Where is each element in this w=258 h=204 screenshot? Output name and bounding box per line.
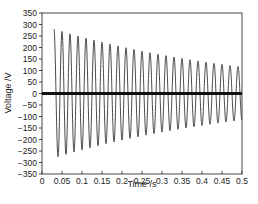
y-tick-label: −250 — [18, 146, 37, 156]
y-tick-label: 0 — [32, 89, 37, 99]
y-tick-label: 150 — [23, 54, 37, 64]
y-tick-label: −300 — [18, 158, 37, 168]
x-tick-label: 0 — [40, 176, 45, 186]
y-tick-label: −200 — [18, 135, 37, 145]
y-axis-ticks: 350300250200150100500−50−100−150−200−250… — [18, 8, 42, 179]
y-tick-label: 350 — [23, 8, 37, 18]
x-tick-label: 0.4 — [196, 176, 208, 186]
x-tick-label: 0.3 — [156, 176, 168, 186]
y-tick-label: 300 — [23, 20, 37, 30]
x-tick-label: 0.2 — [116, 176, 128, 186]
y-axis-title: Voltage /V — [3, 72, 13, 113]
x-tick-label: 0.05 — [54, 176, 71, 186]
y-tick-label: −150 — [18, 123, 37, 133]
y-tick-label: 50 — [28, 77, 38, 87]
y-tick-label: −50 — [23, 100, 38, 110]
voltage-time-chart: 350300250200150100500−50−100−150−200−250… — [0, 0, 258, 204]
x-axis-title: Time /s — [127, 179, 157, 189]
y-tick-label: −350 — [18, 169, 37, 179]
y-tick-label: −100 — [18, 112, 37, 122]
y-tick-label: 100 — [23, 66, 37, 76]
series-layer — [42, 29, 242, 157]
y-tick-label: 200 — [23, 43, 37, 53]
x-tick-label: 0.5 — [236, 176, 248, 186]
x-tick-label: 0.1 — [76, 176, 88, 186]
x-tick-label: 0.35 — [174, 176, 191, 186]
y-tick-label: 250 — [23, 31, 37, 41]
x-tick-label: 0.15 — [94, 176, 111, 186]
x-tick-label: 0.45 — [214, 176, 231, 186]
